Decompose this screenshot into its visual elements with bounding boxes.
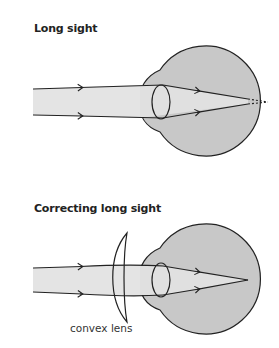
light-beam (33, 85, 140, 118)
diagram-canvas (0, 0, 279, 348)
long-sight-diagram (33, 46, 268, 156)
correcting-long-sight-diagram (33, 224, 260, 334)
